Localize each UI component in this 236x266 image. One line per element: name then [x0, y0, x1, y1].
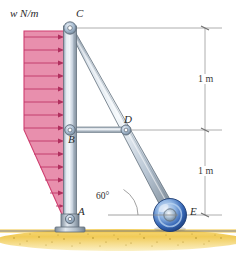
- load-intensity-label: w N/m: [10, 8, 38, 19]
- statics-diagram: w N/m C B D A E 60° 1 m 1 m: [0, 0, 236, 266]
- joint-label-e: E: [190, 206, 197, 217]
- link-member-bd: [70, 127, 128, 132]
- diagram-canvas: [0, 0, 236, 266]
- joint-label-b: B: [68, 134, 75, 145]
- ground-surface: [0, 229, 236, 251]
- pin-joint-d: [121, 125, 131, 135]
- pin-joint-a: [65, 214, 74, 223]
- joint-label-a: A: [78, 206, 85, 217]
- joint-label-c: C: [76, 8, 83, 19]
- distributed-load: [24, 31, 64, 219]
- dimension-group: [76, 26, 222, 217]
- diagonal-member-ce: [66, 24, 177, 218]
- pin-joint-c: [64, 22, 76, 34]
- dimension-label-upper: 1 m: [196, 74, 215, 84]
- dimension-label-lower: 1 m: [196, 166, 215, 176]
- angle-label-60: 60°: [96, 192, 109, 202]
- joint-label-d: D: [124, 114, 132, 125]
